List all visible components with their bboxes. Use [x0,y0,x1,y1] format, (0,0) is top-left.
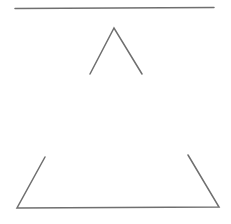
chevron-up-icon [90,28,142,74]
diagram-canvas [0,0,231,224]
line-drawing [0,0,231,224]
trapezoid-base-shape [17,155,219,208]
top-horizontal-line [15,8,214,9]
